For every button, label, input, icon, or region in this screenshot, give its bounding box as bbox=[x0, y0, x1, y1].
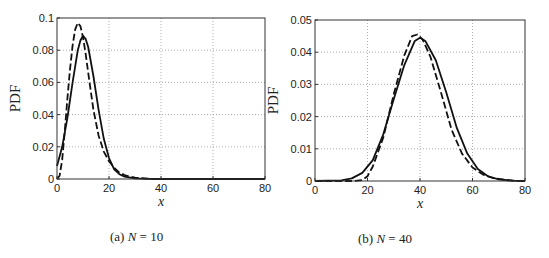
x-tick-label: 80 bbox=[519, 184, 531, 196]
x-tick-label: 20 bbox=[361, 184, 373, 196]
x-tick-label: 0 bbox=[312, 184, 318, 196]
y-tick-label: 0.01 bbox=[291, 143, 312, 155]
x-tick-label: 40 bbox=[155, 182, 167, 194]
x-tick-label: 60 bbox=[207, 182, 219, 194]
y-tick-label: 0.03 bbox=[291, 78, 312, 90]
x-tick-label: 20 bbox=[103, 182, 115, 194]
y-axis-label: PDF bbox=[265, 87, 281, 115]
caption-b-var: N bbox=[376, 231, 385, 246]
caption-b-value: = 40 bbox=[385, 231, 412, 246]
y-tick-label: 0.05 bbox=[291, 14, 312, 26]
caption-b-prefix: (b) bbox=[358, 231, 373, 246]
y-tick-label: 0 bbox=[48, 173, 54, 185]
chart-a-n10: 02040608000.020.040.060.080.1xPDF bbox=[7, 12, 271, 209]
y-tick-label: 0.02 bbox=[33, 141, 54, 153]
y-tick-label: 0 bbox=[306, 175, 312, 187]
y-tick-label: 0.04 bbox=[33, 109, 54, 121]
y-tick-label: 0.08 bbox=[33, 44, 54, 56]
y-tick-label: 0.02 bbox=[291, 111, 312, 123]
caption-b: (b) N = 40 bbox=[358, 231, 412, 247]
x-tick-label: 80 bbox=[259, 182, 271, 194]
caption-a: (a) N = 10 bbox=[110, 229, 163, 245]
caption-a-prefix: (a) bbox=[110, 229, 124, 244]
x-axis-label: x bbox=[416, 196, 424, 211]
y-tick-label: 0.06 bbox=[33, 76, 54, 88]
x-tick-label: 0 bbox=[54, 182, 60, 194]
caption-a-value: = 10 bbox=[136, 229, 163, 244]
x-axis-label: x bbox=[157, 194, 165, 209]
y-tick-label: 0.1 bbox=[39, 12, 54, 24]
y-tick-label: 0.04 bbox=[291, 46, 312, 58]
x-tick-label: 60 bbox=[466, 184, 478, 196]
chart-b-n40: 02040608000.010.020.030.040.05xPDF bbox=[265, 14, 531, 211]
figure-canvas: 02040608000.020.040.060.080.1xPDF 020406… bbox=[0, 0, 549, 258]
x-tick-label: 40 bbox=[414, 184, 426, 196]
y-axis-label: PDF bbox=[7, 85, 23, 113]
